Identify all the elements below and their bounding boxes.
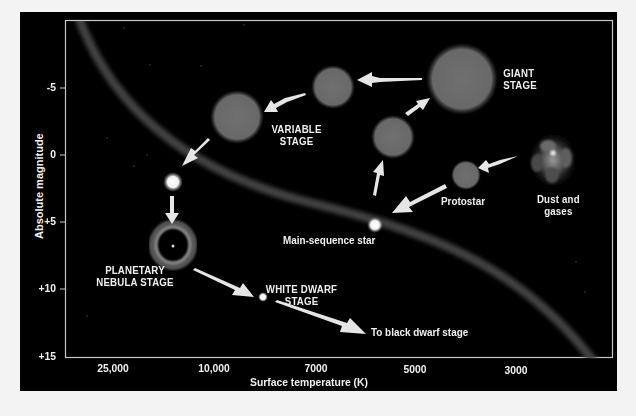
giant-stage-label: GIANT STAGE — [503, 68, 537, 91]
arrow-expanding-to-giant — [405, 98, 430, 116]
nebula-label-line2: NEBULA STAGE — [96, 277, 173, 289]
x-tick-label: 3000 — [489, 364, 543, 376]
main-sequence-star — [367, 217, 383, 233]
post-variable-star — [163, 172, 183, 192]
white-dwarf-label-line1: WHITE DWARF — [266, 284, 337, 296]
y-tick-label: +10 — [20, 282, 56, 294]
arrow-small-to-nebula — [165, 196, 179, 224]
nebula-label-line1: PLANETARY — [96, 265, 173, 277]
planetary-nebula-stage-label: PLANETARY NEBULA STAGE — [96, 265, 173, 288]
variable-stage-label: VARIABLE STAGE — [271, 124, 321, 147]
white-dwarf-label-line2: STAGE — [266, 296, 337, 308]
dust-cloud-icon — [527, 130, 579, 190]
variable-label-line1: VARIABLE — [271, 124, 321, 136]
giant-star — [426, 43, 498, 115]
x-tick-label: 10,000 — [187, 362, 241, 374]
planetary-nebula-icon — [153, 224, 193, 266]
arrow-main-to-expanding — [373, 160, 384, 196]
x-tick-label: 25,000 — [86, 362, 140, 374]
y-tick-label: -5 — [20, 81, 56, 93]
arrow-nebula-to-white-dwarf — [193, 268, 254, 297]
protostar-label: Protostar — [441, 196, 485, 208]
y-tick-label: +15 — [20, 350, 56, 362]
arrow-giant-to-shrinking — [357, 72, 422, 87]
arrow-shrinking-to-variable — [264, 93, 306, 112]
giant-label-line1: GIANT — [503, 68, 537, 80]
x-tick-label: 5000 — [388, 363, 442, 375]
arrow-protostar-to-main-sequence — [392, 184, 447, 213]
dust-label-line1: Dust and — [537, 194, 580, 206]
main-sequence-label: Main-sequence star — [283, 235, 375, 247]
expanding-star-1 — [371, 115, 415, 159]
arrow-dust-to-protostar — [478, 156, 518, 173]
protostar — [451, 160, 481, 190]
giant-label-line2: STAGE — [503, 80, 537, 92]
main-sequence-band — [76, 10, 600, 370]
dust-label-line2: gases — [537, 206, 580, 218]
y-axis-label: Absolute magnitude — [33, 149, 45, 239]
variable-label-line2: STAGE — [271, 136, 321, 148]
white-dwarf-stage-label: WHITE DWARF STAGE — [266, 284, 337, 307]
expanding-star-2 — [311, 65, 355, 109]
x-axis-label: Surface temperature (K) — [250, 376, 368, 388]
dust-and-gases-label: Dust and gases — [537, 194, 580, 217]
x-tick-label: 7000 — [289, 362, 343, 374]
black-dwarf-label: To black dwarf stage — [371, 327, 468, 339]
variable-star — [210, 90, 264, 144]
